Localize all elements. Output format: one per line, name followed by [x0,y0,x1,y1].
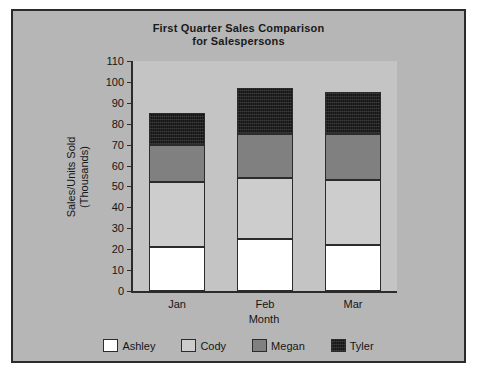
bar-segment-cody[interactable] [325,180,381,245]
bar-segment-megan[interactable] [237,134,293,178]
y-axis-tick-label: 0 [118,285,124,297]
stacked-bar[interactable] [149,61,205,291]
legend-item-cody[interactable]: Cody [181,339,226,352]
bar-segment-ashley[interactable] [325,245,381,291]
y-axis-tick [127,270,133,271]
y-axis-title-line-2: (Thousands) [78,137,91,218]
y-axis-tick [127,103,133,104]
chart-title: First Quarter Sales Comparison for Sales… [13,22,464,48]
legend-swatch-cody [181,339,196,352]
legend-label: Ashley [122,340,155,352]
legend-label: Tyler [350,340,374,352]
y-axis-tick [127,228,133,229]
bar-segment-ashley[interactable] [237,239,293,291]
y-axis-tick-label: 70 [112,139,124,151]
bar-segment-tyler[interactable] [237,88,293,134]
bar-segment-cody[interactable] [237,178,293,239]
chart-figure: First Quarter Sales Comparison for Sales… [11,9,466,363]
y-axis-tick [127,61,133,62]
y-axis-title: Sales/Units Sold (Thousands) [70,61,86,293]
y-axis-tick-label: 90 [112,97,124,109]
legend-item-tyler[interactable]: Tyler [331,339,374,352]
y-axis-tick [127,82,133,83]
x-axis-tick-label: Jan [149,298,205,310]
y-axis-tick [127,124,133,125]
chart-title-line-1: First Quarter Sales Comparison [13,22,464,35]
y-axis-tick-label: 100 [106,76,124,88]
stacked-bar[interactable] [325,61,381,291]
bar-segment-cody[interactable] [149,182,205,247]
y-axis-tick [127,249,133,250]
x-axis-tick-label: Mar [325,298,381,310]
plot-area: 0102030405060708090100110JanFebMar [131,61,397,293]
y-axis-tick-label: 60 [112,160,124,172]
bar-segment-tyler[interactable] [149,113,205,144]
y-axis-tick-label: 40 [112,201,124,213]
y-axis-title-line-1: Sales/Units Sold [65,137,78,218]
y-axis-tick-label: 10 [112,264,124,276]
x-axis-tick-label: Feb [237,298,293,310]
stacked-bar[interactable] [237,61,293,291]
y-axis-tick-label: 110 [106,55,124,67]
y-axis-tick [127,291,133,292]
y-axis-tick-label: 50 [112,180,124,192]
chart-legend: AshleyCodyMeganTyler [13,339,464,352]
legend-swatch-megan [252,339,267,352]
y-axis-tick-label: 30 [112,222,124,234]
y-axis-tick [127,145,133,146]
y-axis-tick-label: 20 [112,243,124,255]
legend-label: Cody [200,340,226,352]
chart-title-line-2: for Salespersons [13,35,464,48]
bar-segment-tyler[interactable] [325,92,381,134]
bar-group: Feb [237,61,293,291]
legend-item-ashley[interactable]: Ashley [103,339,155,352]
legend-item-megan[interactable]: Megan [252,339,305,352]
bar-segment-megan[interactable] [325,134,381,180]
legend-swatch-ashley [103,339,118,352]
y-axis-tick-label: 80 [112,118,124,130]
y-axis-tick [127,207,133,208]
legend-swatch-tyler [331,339,346,352]
bar-segment-megan[interactable] [149,145,205,183]
y-axis-tick [127,166,133,167]
y-axis-tick [127,186,133,187]
bar-segment-ashley[interactable] [149,247,205,291]
bar-group: Jan [149,61,205,291]
bar-group: Mar [325,61,381,291]
x-axis-title: Month [131,313,397,325]
legend-label: Megan [271,340,305,352]
